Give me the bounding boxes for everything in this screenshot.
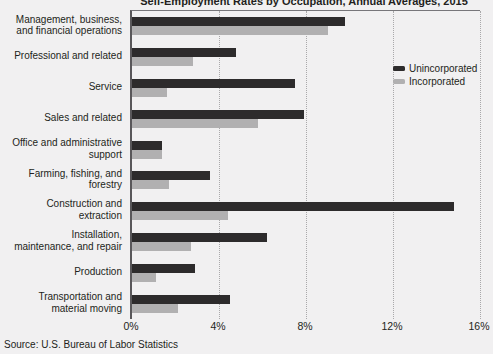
bar-unincorporated bbox=[132, 295, 230, 304]
chart-row bbox=[132, 11, 480, 42]
bar-unincorporated bbox=[132, 79, 295, 88]
bar-unincorporated bbox=[132, 264, 195, 273]
x-axis: 0%4%8%12%16% bbox=[131, 320, 479, 334]
bar-unincorporated bbox=[132, 48, 236, 57]
bar-incorporated bbox=[132, 26, 328, 35]
chart-row bbox=[132, 288, 480, 319]
chart-row bbox=[132, 134, 480, 165]
bar-incorporated bbox=[132, 273, 156, 282]
legend-swatch-incorporated-icon bbox=[393, 79, 405, 84]
bar-unincorporated bbox=[132, 171, 210, 180]
category-label: Sales and related bbox=[0, 102, 126, 133]
legend: Unincorporated Incorporated bbox=[393, 63, 477, 87]
plot-rows bbox=[132, 11, 480, 319]
bar-incorporated bbox=[132, 150, 162, 159]
bar-unincorporated bbox=[132, 110, 304, 119]
category-label: Farming, fishing, and forestry bbox=[0, 164, 126, 195]
chart-row bbox=[132, 196, 480, 227]
bar-unincorporated bbox=[132, 17, 345, 26]
category-label: Installation, maintenance, and repair bbox=[0, 226, 126, 257]
self-employment-chart: Self-Employment Rates by Occupation, Ann… bbox=[0, 0, 493, 354]
bar-incorporated bbox=[132, 119, 258, 128]
bar-unincorporated bbox=[132, 233, 267, 242]
bar-incorporated bbox=[132, 180, 169, 189]
category-label: Management, business, and financial oper… bbox=[0, 10, 126, 41]
bar-incorporated bbox=[132, 304, 178, 313]
category-label: Professional and related bbox=[0, 41, 126, 72]
legend-item-unincorporated: Unincorporated bbox=[393, 63, 477, 74]
plot-area bbox=[130, 10, 480, 319]
x-tick-label: 4% bbox=[210, 320, 225, 332]
category-axis: Management, business, and financial oper… bbox=[0, 10, 126, 318]
legend-item-incorporated: Incorporated bbox=[393, 76, 477, 87]
bar-incorporated bbox=[132, 242, 191, 251]
chart-row bbox=[132, 103, 480, 134]
legend-label-incorporated: Incorporated bbox=[409, 76, 465, 87]
chart-title: Self-Employment Rates by Occupation, Ann… bbox=[118, 0, 490, 7]
category-label: Construction and extraction bbox=[0, 195, 126, 226]
category-label: Transportation and material moving bbox=[0, 287, 126, 318]
chart-row bbox=[132, 257, 480, 288]
x-tick-label: 16% bbox=[468, 320, 489, 332]
legend-label-unincorporated: Unincorporated bbox=[409, 63, 477, 74]
bar-incorporated bbox=[132, 211, 228, 220]
x-tick-label: 0% bbox=[123, 320, 138, 332]
bar-incorporated bbox=[132, 88, 167, 97]
chart-row bbox=[132, 227, 480, 258]
x-tick-label: 12% bbox=[381, 320, 402, 332]
source-note: Source: U.S. Bureau of Labor Statistics bbox=[4, 339, 178, 350]
gridline bbox=[480, 11, 481, 319]
legend-swatch-unincorporated-icon bbox=[393, 66, 405, 71]
bar-unincorporated bbox=[132, 141, 162, 150]
category-label: Office and administrative support bbox=[0, 133, 126, 164]
x-tick-label: 8% bbox=[297, 320, 312, 332]
category-label: Production bbox=[0, 256, 126, 287]
bar-unincorporated bbox=[132, 202, 454, 211]
category-label: Service bbox=[0, 72, 126, 103]
bar-incorporated bbox=[132, 57, 193, 66]
chart-row bbox=[132, 165, 480, 196]
